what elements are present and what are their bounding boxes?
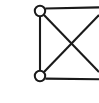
- node-bottom-left: [35, 71, 45, 81]
- edge-top-horizontal: [45, 7, 99, 8]
- graph-diagram-svg: [0, 0, 99, 103]
- graph-figure: [0, 0, 99, 103]
- edge-bottom-horizontal: [45, 79, 99, 80]
- node-top-left: [35, 6, 45, 16]
- figure-background: [0, 0, 99, 103]
